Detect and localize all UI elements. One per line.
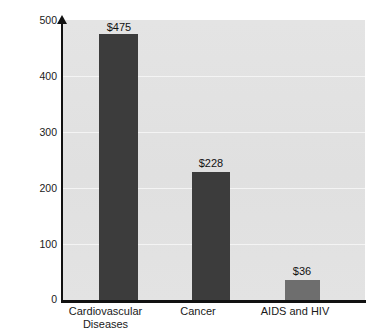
- x-label-cancer: Cancer: [152, 305, 244, 318]
- y-tick-label-100: 100: [22, 239, 57, 250]
- y-axis-line: [61, 22, 63, 301]
- y-tick-label-0: 0: [22, 294, 57, 305]
- x-axis-line: [61, 300, 366, 303]
- y-tick-label-200: 200: [22, 183, 57, 194]
- x-label-aids-hiv: AIDS and HIV: [240, 305, 350, 318]
- bar-cancer: [192, 172, 230, 300]
- y-axis-arrow-icon: [57, 15, 67, 24]
- y-tick-label-500: 500: [22, 15, 57, 26]
- bar-cardiovascular: [99, 34, 138, 300]
- y-tick-label-300: 300: [22, 127, 57, 138]
- bar-aids-hiv: [285, 280, 320, 300]
- bar-value-cardiovascular: $475: [79, 21, 159, 33]
- bar-value-aids-hiv: $36: [262, 265, 342, 277]
- y-tick-label-400: 400: [22, 71, 57, 82]
- y-tick-labels: 500 400 300 200 100 0: [22, 0, 57, 300]
- bar-chart: Economic Costs in Billions of Dollars 50…: [0, 0, 383, 333]
- x-label-cardiovascular: Cardiovascular Diseases: [49, 305, 162, 331]
- bar-value-cancer: $228: [171, 157, 251, 169]
